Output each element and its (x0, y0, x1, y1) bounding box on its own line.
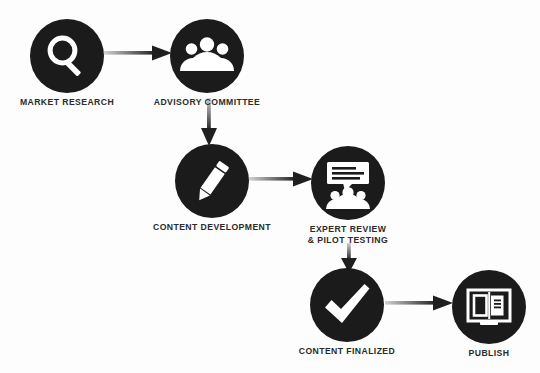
node-expert-review[interactable]: EXPERT REVIEW & PILOT TESTING (311, 146, 385, 220)
arrow-development-to-review (249, 168, 313, 190)
node-label-content-finalized: CONTENT FINALIZED (299, 346, 395, 357)
node-label-content-development: CONTENT DEVELOPMENT (153, 222, 271, 233)
checkmark-icon (310, 268, 384, 342)
node-content-finalized[interactable]: CONTENT FINALIZED (310, 268, 384, 342)
process-flow-diagram: MARKET RESEARCH ADVISORY COMMITTEE (0, 0, 540, 373)
magnifier-icon (30, 19, 104, 93)
presentation-audience-icon (311, 146, 385, 220)
node-label-advisory-committee: ADVISORY COMMITTEE (154, 97, 260, 108)
node-label-publish: PUBLISH (469, 348, 510, 359)
node-label-market-research: MARKET RESEARCH (20, 97, 114, 108)
pencil-icon (175, 144, 249, 218)
node-advisory-committee[interactable]: ADVISORY COMMITTEE (170, 19, 244, 93)
arrow-finalized-to-publish (385, 292, 453, 314)
node-label-expert-review: EXPERT REVIEW & PILOT TESTING (308, 224, 388, 246)
arrow-research-to-committee (104, 42, 172, 64)
node-content-development[interactable]: CONTENT DEVELOPMENT (175, 144, 249, 218)
node-market-research[interactable]: MARKET RESEARCH (30, 19, 104, 93)
people-group-icon (170, 19, 244, 93)
open-book-icon (452, 270, 526, 344)
node-publish[interactable]: PUBLISH (452, 270, 526, 344)
